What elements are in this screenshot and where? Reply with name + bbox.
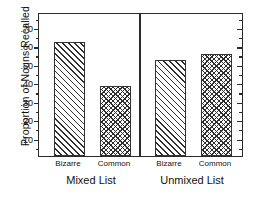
y-tick-minor-left xyxy=(36,20,39,21)
category-label: Bizarre xyxy=(55,159,80,168)
y-tick-label: .60 xyxy=(20,42,33,52)
group-label-unmixed-list: Unmixed List xyxy=(160,174,224,186)
category-label: Common xyxy=(98,159,130,168)
y-tick-label: .50 xyxy=(20,61,33,71)
bar-mixed-list-common xyxy=(100,86,131,156)
group-label-mixed-list: Mixed List xyxy=(66,174,116,186)
y-tick-major-left xyxy=(34,103,39,104)
y-tick-minor-right xyxy=(239,149,242,150)
plot-area: .10.20.30.40.50.60.70 xyxy=(38,13,243,157)
y-tick-minor-left xyxy=(36,75,39,76)
y-tick-major-left xyxy=(34,121,39,122)
group-divider-line xyxy=(139,14,141,156)
y-tick-major-right xyxy=(237,47,242,48)
y-tick-major-right xyxy=(237,66,242,67)
y-tick-minor-right xyxy=(239,56,242,57)
y-tick-major-right xyxy=(237,29,242,30)
y-tick-label: .70 xyxy=(20,24,33,34)
y-tick-minor-right xyxy=(239,75,242,76)
bar-unmixed-list-common xyxy=(201,54,232,156)
y-tick-label: .40 xyxy=(20,79,33,89)
y-tick-major-right xyxy=(237,84,242,85)
y-tick-minor-right xyxy=(239,112,242,113)
y-tick-minor-right xyxy=(239,20,242,21)
y-tick-major-right xyxy=(237,140,242,141)
y-tick-minor-left xyxy=(36,93,39,94)
y-tick-minor-left xyxy=(36,56,39,57)
y-tick-major-left xyxy=(34,47,39,48)
y-tick-minor-right xyxy=(239,38,242,39)
y-tick-minor-left xyxy=(36,149,39,150)
y-tick-minor-left xyxy=(36,38,39,39)
y-tick-minor-left xyxy=(36,130,39,131)
bar-chart-figure: Proportion of Nouns Recalled .10.20.30.4… xyxy=(0,0,255,197)
y-tick-major-right xyxy=(237,121,242,122)
y-tick-label: .30 xyxy=(20,98,33,108)
category-label: Common xyxy=(199,159,231,168)
y-tick-minor-left xyxy=(36,112,39,113)
y-tick-minor-right xyxy=(239,93,242,94)
y-tick-major-left xyxy=(34,140,39,141)
y-tick-minor-right xyxy=(239,130,242,131)
y-tick-major-right xyxy=(237,103,242,104)
y-tick-label: .10 xyxy=(20,135,33,145)
bar-unmixed-list-bizarre xyxy=(155,60,186,156)
y-tick-label: .20 xyxy=(20,116,33,126)
y-tick-major-left xyxy=(34,66,39,67)
bar-mixed-list-bizarre xyxy=(54,42,85,156)
y-tick-major-left xyxy=(34,29,39,30)
category-label: Bizarre xyxy=(156,159,181,168)
y-tick-major-left xyxy=(34,84,39,85)
